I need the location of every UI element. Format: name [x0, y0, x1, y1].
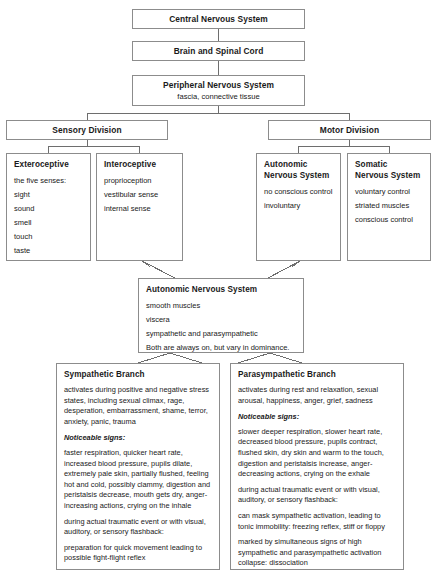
nervous-system-diagram: Central Nervous System Brain and Spinal …: [0, 0, 437, 581]
signs-text: faster respiration, quicker heart rate, …: [64, 448, 212, 512]
node-title: Brain and Spinal Cord: [139, 46, 298, 57]
node-interoceptive[interactable]: Interoceptive proprioception vestibular …: [96, 153, 183, 261]
node-brain-and-spinal-cord[interactable]: Brain and Spinal Cord: [132, 41, 305, 61]
node-item: smell: [14, 216, 83, 229]
node-title: Sensory Division: [13, 125, 161, 136]
node-item: proprioception: [104, 174, 175, 187]
node-item: no conscious control: [264, 185, 333, 198]
connector-parasympathetic-ans: [238, 353, 270, 363]
flashback-label: during actual traumatic event or with vi…: [64, 517, 212, 538]
connector-sympathetic-ans: [138, 353, 170, 363]
node-item: taste: [14, 244, 83, 257]
node-item: striated muscles: [355, 199, 423, 212]
flashback-text: can mask sympathetic activation, leading…: [238, 511, 396, 532]
node-motor-division[interactable]: Motor Division: [268, 120, 431, 140]
node-item: Both are always on, but vary in dominanc…: [146, 341, 296, 354]
node-sympathetic-branch[interactable]: Sympathetic Branch activates during posi…: [56, 363, 220, 570]
node-title: Autonomic Nervous System: [264, 159, 333, 181]
node-central-nervous-system[interactable]: Central Nervous System: [132, 9, 305, 29]
noticeable-signs-label: Noticeable signs:: [64, 433, 212, 444]
node-item: viscera: [146, 313, 296, 326]
node-item: involuntary: [264, 199, 333, 212]
connector-sympathetic-ans-c: [170, 353, 202, 363]
node-item: conscious control: [355, 213, 423, 226]
node-sensory-division[interactable]: Sensory Division: [6, 120, 168, 140]
node-title: Somatic Nervous System: [355, 159, 423, 181]
extra-text: marked by simultaneous signs of high sym…: [238, 537, 396, 569]
node-item: touch: [14, 230, 83, 243]
node-parasympathetic-branch[interactable]: Parasympathetic Branch activates during …: [230, 363, 404, 570]
connector-ans-to-autonomic: [268, 261, 300, 278]
flashback-text: preparation for quick movement leading t…: [64, 543, 212, 564]
node-title: Central Nervous System: [139, 14, 298, 25]
signs-text: slower deeper respiration, slower heart …: [238, 427, 396, 480]
flashback-label: during actual traumatic event or with vi…: [238, 485, 396, 506]
node-somatic-nervous-system[interactable]: Somatic Nervous System voluntary control…: [347, 153, 431, 261]
node-title: Sympathetic Branch: [64, 369, 212, 380]
activation-text: activates during rest and relaxation, se…: [238, 385, 396, 406]
node-exteroceptive[interactable]: Exteroceptive the five senses: sight sou…: [6, 153, 91, 261]
node-peripheral-nervous-system[interactable]: Peripheral Nervous System fascia, connec…: [132, 75, 305, 106]
noticeable-signs-label: Noticeable signs:: [238, 412, 396, 423]
node-item: vestibular sense: [104, 188, 175, 201]
node-title: Interoceptive: [104, 159, 175, 170]
node-autonomic-nervous-system[interactable]: Autonomic Nervous System smooth muscles …: [138, 278, 304, 353]
connector-parasympathetic-ans-b: [270, 353, 302, 363]
node-title: Parasympathetic Branch: [238, 369, 396, 380]
node-autonomic-nervous-system-motor[interactable]: Autonomic Nervous System no conscious co…: [256, 153, 341, 261]
node-item: the five senses:: [14, 174, 83, 187]
connector-ans-to-interoceptive: [142, 261, 175, 278]
node-item: sympathetic and parasympathetic: [146, 327, 296, 340]
node-title: Autonomic Nervous System: [146, 284, 296, 295]
node-title: Motor Division: [275, 125, 424, 136]
node-item: voluntary control: [355, 185, 423, 198]
node-item: sight: [14, 188, 83, 201]
node-subtitle: fascia, connective tissue: [139, 91, 298, 102]
node-item: smooth muscles: [146, 299, 296, 312]
node-title: Exteroceptive: [14, 159, 83, 170]
node-title: Peripheral Nervous System: [139, 80, 298, 91]
node-item: sound: [14, 202, 83, 215]
activation-text: activates during positive and negative s…: [64, 385, 212, 427]
node-item: internal sense: [104, 202, 175, 215]
